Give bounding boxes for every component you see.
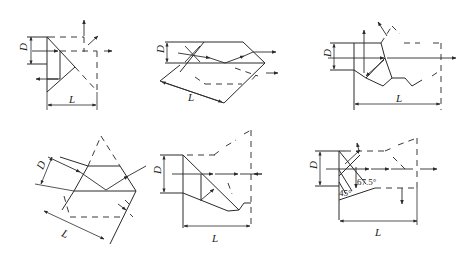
panel-e-l-label: L — [211, 232, 218, 244]
panel-a: D L — [17, 20, 112, 110]
panel-a-l-label: L — [68, 93, 75, 105]
panel-b-l-label: L — [187, 91, 194, 103]
panel-f-angle-67-5: 67.5° — [357, 177, 377, 187]
panel-c-d-label: D — [321, 49, 333, 58]
panel-c: D L — [321, 22, 456, 110]
prism-diagram-figure: D L D L — [0, 0, 476, 255]
panel-e: D L — [151, 130, 262, 244]
panel-b-d-label: D — [154, 45, 166, 54]
panel-a-d-label: D — [17, 43, 29, 52]
panel-f-angle-45: 45° — [339, 188, 352, 198]
panel-d: D L — [33, 136, 146, 244]
panel-b: D L — [154, 42, 278, 103]
panel-d-d-label: D — [33, 159, 48, 172]
panel-d-l-label: L — [59, 226, 71, 240]
panel-f-d-label: D — [307, 161, 319, 170]
panel-f: D L 45° 67.5° — [307, 138, 437, 238]
panel-e-d-label: D — [151, 166, 163, 175]
panel-f-l-label: L — [374, 226, 381, 238]
panel-c-l-label: L — [395, 92, 402, 104]
